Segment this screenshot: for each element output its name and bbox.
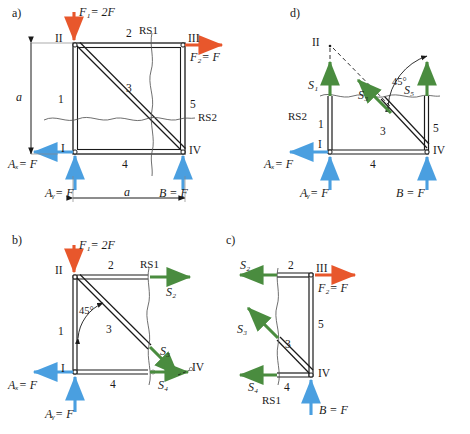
panel-a-node-II: II <box>55 32 63 44</box>
panel-c-node-III: III <box>316 262 328 274</box>
panel-b-force-ay-label: Aᵧ= F <box>45 407 74 422</box>
panel-d-force-s5-label: S₅ <box>404 83 414 98</box>
panel-c-member-4: 4 <box>284 381 290 393</box>
panel-c-member-3: 3 <box>285 338 291 350</box>
panel-b-member-2: 2 <box>108 259 114 271</box>
panel-a-tag: a) <box>12 6 21 21</box>
panel-d-node-IV: IV <box>433 144 445 156</box>
panel-d-force-ax-label: Aₓ= F <box>264 157 293 172</box>
panel-a-node-I: I <box>61 142 65 154</box>
panel-a-structure <box>73 43 186 155</box>
panel-c-force-f2-label: F₂= F <box>318 281 348 296</box>
panel-b-node-IV: IV <box>192 361 204 373</box>
panel-a-cut-rs2-label: RS2 <box>198 111 217 123</box>
panel-d-node-II: II <box>312 36 320 48</box>
panel-c-force-b-label: B = F <box>319 403 348 418</box>
panel-b-force-s4-label: S₄ <box>158 378 168 393</box>
panel-b-structure <box>73 275 155 375</box>
panel-d-member-1-upper: 1 <box>318 118 324 130</box>
panel-a-member-2: 2 <box>126 27 132 39</box>
panel-c-member-5: 5 <box>318 318 324 330</box>
panel-c-member-2: 2 <box>288 259 294 271</box>
panel-b-member-3: 3 <box>106 323 112 335</box>
panel-c-force-s3-label: S₃ <box>237 322 247 337</box>
panel-a-member-4: 4 <box>122 158 128 170</box>
panel-a-cut-rs1-label: RS1 <box>139 24 158 36</box>
panel-d-member-3: 3 <box>380 125 386 137</box>
panel-a-member-1: 1 <box>58 93 64 105</box>
panel-d-member-4: 4 <box>370 158 376 170</box>
panel-c-structure <box>277 273 313 377</box>
panel-a-member-3: 3 <box>126 82 132 94</box>
panel-c-cut-rs1 <box>276 268 279 385</box>
panel-a-dim-height: a <box>16 90 22 105</box>
panel-d-force-s3-label: S₃ <box>358 88 368 103</box>
panel-c-force-s2-label: S₂ <box>240 258 250 273</box>
panel-a-force-ax-label: Aₓ= F <box>8 157 37 172</box>
panel-a-node-IV: IV <box>189 144 201 156</box>
panel-d-member-5: 5 <box>433 122 439 134</box>
panel-c-tag: c) <box>226 233 235 248</box>
panel-b-angle-label: 45° <box>79 305 94 316</box>
panel-b-cut-rs1 <box>147 268 150 385</box>
panel-a-force-f2-label: F₂= F <box>190 50 220 65</box>
panel-d-force-ay-label: Aᵧ= F <box>300 186 329 201</box>
panel-a-node-III: III <box>188 32 200 44</box>
panel-b-node-II: II <box>55 264 63 276</box>
panel-d-tag: d) <box>290 6 300 21</box>
panel-b-force-f1-label: F₁= 2F <box>79 238 115 253</box>
panel-a-force-ay-label: Aᵧ= F <box>45 186 74 201</box>
panel-b-cut-rs1-label: RS1 <box>140 258 159 270</box>
panel-d-force-s1-label: S₁ <box>308 78 318 93</box>
figure-canvas: a) F₁= 2F F₂= F Aₓ= F Aᵧ= F B = F II III… <box>0 0 470 434</box>
figure-vector-layer <box>0 0 470 434</box>
panel-d-force-b-label: B = F <box>396 186 425 201</box>
panel-d-cut-rs2-label: RS2 <box>288 110 307 122</box>
panel-b-member-4: 4 <box>110 378 116 390</box>
panel-b-node-I: I <box>61 362 65 374</box>
panel-b-force-s3-label: S₃ <box>160 344 170 359</box>
panel-b-force-ax-label: Aₓ= F <box>8 378 37 393</box>
panel-a-dim-width: a <box>124 185 130 200</box>
panel-b-force-s2-label: S₂ <box>166 285 176 300</box>
panel-a-force-b-label: B = F <box>159 186 188 201</box>
panel-a-cut-rs2 <box>44 117 195 120</box>
panel-d-structure <box>328 96 429 154</box>
panel-a-member-5: 5 <box>190 98 196 110</box>
panel-b-member-1: 1 <box>58 325 64 337</box>
panel-d-node-I: I <box>318 138 322 150</box>
panel-a-dimensions <box>31 43 185 202</box>
panel-c-force-s4-label: S₄ <box>248 380 258 395</box>
panel-c-node-IV: IV <box>318 367 330 379</box>
panel-b-tag: b) <box>12 233 22 248</box>
panel-a-force-f1-label: F₁= 2F <box>79 5 115 20</box>
panel-c-cut-rs1-label: RS1 <box>262 394 281 406</box>
panel-d-cut-rs2 <box>320 94 440 97</box>
